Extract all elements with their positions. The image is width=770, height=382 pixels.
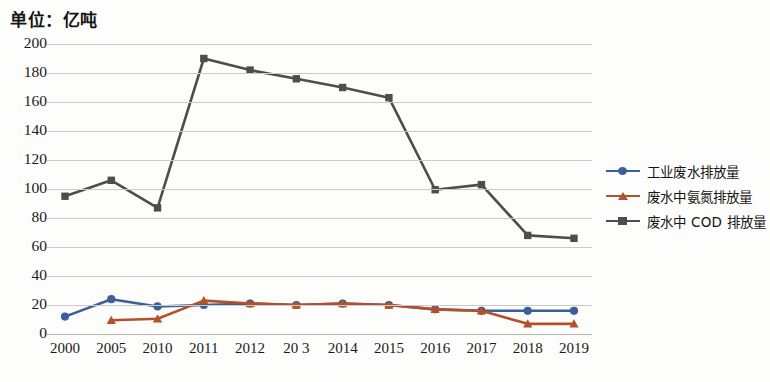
- data-point-marker: [570, 307, 578, 315]
- gridline: [47, 73, 592, 74]
- gridline: [47, 276, 592, 277]
- y-axis-tick-label: 80: [3, 208, 47, 226]
- x-axis-tick-label: 2005: [96, 340, 126, 357]
- y-axis-tick-label: 200: [3, 34, 47, 52]
- x-axis: 2000200520102011201220 32014201520162017…: [47, 338, 592, 364]
- x-axis-tick-label: 2000: [50, 340, 80, 357]
- y-axis: 200180160140120100806040200: [0, 44, 47, 334]
- data-point-marker: [339, 84, 346, 91]
- x-axis-tick-label: 2015: [374, 340, 404, 357]
- plot-area: [47, 44, 592, 334]
- x-axis-tick-label: 2011: [189, 340, 218, 357]
- y-axis-tick-label: 0: [3, 324, 47, 342]
- x-axis-tick-label: 2016: [420, 340, 450, 357]
- legend-label: 废水中 COD 排放量: [647, 211, 766, 231]
- y-axis-tick-label: 160: [3, 92, 47, 110]
- gridline: [47, 247, 592, 248]
- y-axis-tick-label: 20: [3, 295, 47, 313]
- legend-swatch-triangle-icon: [606, 190, 640, 202]
- gridline: [47, 218, 592, 219]
- data-point-marker: [153, 302, 161, 310]
- x-axis-tick-label: 2018: [513, 340, 543, 357]
- data-point-marker: [478, 181, 485, 188]
- gridline: [47, 102, 592, 103]
- legend-item[interactable]: 工业废水排放量: [606, 158, 770, 183]
- x-axis-tick-label: 20 3: [283, 340, 309, 357]
- x-axis-tick-label: 2010: [143, 340, 173, 357]
- gridline: [47, 44, 592, 45]
- x-axis-tick-label: 2019: [559, 340, 589, 357]
- series-line: [65, 59, 574, 239]
- gridline: [47, 305, 592, 306]
- y-axis-tick-label: 40: [3, 266, 47, 284]
- legend-marker: [618, 217, 627, 225]
- line-chart: 200180160140120100806040200 200020052010…: [0, 36, 600, 346]
- legend-label: 废水中氨氮排放量: [647, 186, 753, 206]
- x-axis-tick-label: 2014: [328, 340, 358, 357]
- data-point-marker: [385, 94, 392, 101]
- y-axis-tick-label: 180: [3, 63, 47, 81]
- legend-marker: [618, 167, 627, 175]
- unit-title: 单位：亿吨: [10, 6, 98, 31]
- data-point-marker: [107, 295, 115, 303]
- data-point-marker: [154, 204, 161, 211]
- chart-page: 单位：亿吨 200180160140120100806040200 200020…: [0, 0, 770, 382]
- data-point-marker: [200, 55, 207, 62]
- chart-legend: 工业废水排放量废水中氨氮排放量废水中 COD 排放量: [606, 158, 770, 233]
- legend-label: 工业废水排放量: [647, 161, 739, 181]
- legend-swatch-square-icon: [606, 215, 640, 227]
- legend-item[interactable]: 废水中 COD 排放量: [606, 208, 770, 233]
- y-axis-tick-label: 140: [3, 121, 47, 139]
- y-axis-tick-label: 100: [3, 179, 47, 197]
- series-square: [61, 55, 577, 242]
- data-point-marker: [108, 177, 115, 184]
- y-axis-tick-label: 120: [3, 150, 47, 168]
- gridline: [47, 189, 592, 190]
- data-point-marker: [61, 313, 69, 321]
- data-point-marker: [293, 75, 300, 82]
- legend-marker: [618, 192, 628, 200]
- data-point-marker: [524, 307, 532, 315]
- data-point-marker: [61, 193, 68, 200]
- data-point-marker: [570, 235, 577, 242]
- legend-item[interactable]: 废水中氨氮排放量: [606, 183, 770, 208]
- gridline: [47, 334, 592, 335]
- gridline: [47, 160, 592, 161]
- x-axis-tick-label: 2017: [466, 340, 496, 357]
- y-axis-tick-label: 60: [3, 237, 47, 255]
- legend-swatch-circle-icon: [606, 165, 640, 177]
- x-axis-tick-label: 2012: [235, 340, 265, 357]
- data-point-marker: [524, 232, 531, 239]
- gridline: [47, 131, 592, 132]
- series-line: [65, 299, 574, 316]
